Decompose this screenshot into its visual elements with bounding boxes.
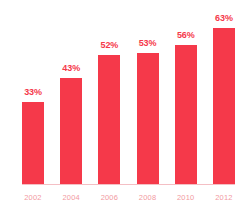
bar-group-2010[interactable]: 56%	[175, 10, 197, 184]
x-tick-label: 2002	[22, 193, 44, 202]
x-tick-label: 2008	[137, 193, 159, 202]
bar-value-label: 33%	[24, 88, 42, 97]
x-axis-tick-labels: 2002 2004 2006 2008 2010 2012	[22, 193, 235, 202]
bar-value-label: 53%	[139, 39, 157, 48]
bar-rect[interactable]	[98, 55, 120, 184]
bar-value-label: 63%	[215, 14, 233, 23]
bar-rect[interactable]	[137, 53, 159, 184]
bar-value-label: 43%	[62, 64, 80, 73]
bar-group-2008[interactable]: 53%	[137, 10, 159, 184]
bar-group-2012[interactable]: 63%	[213, 10, 235, 184]
bar-group-2004[interactable]: 43%	[60, 10, 82, 184]
bar-group-2002[interactable]: 33%	[22, 10, 44, 184]
plot-area: 33% 43% 52% 53% 56% 63%	[22, 10, 235, 184]
bar-chart: 33% 43% 52% 53% 56% 63% 2002 2004 2006 2	[0, 0, 251, 217]
x-tick-label: 2010	[175, 193, 197, 202]
bar-value-label: 52%	[101, 41, 119, 50]
bar-value-label: 56%	[177, 31, 195, 40]
bar-rect[interactable]	[213, 28, 235, 184]
x-axis-line	[22, 184, 235, 185]
bar-rect[interactable]	[22, 102, 44, 184]
x-tick-label: 2004	[60, 193, 82, 202]
bar-rect[interactable]	[175, 45, 197, 184]
x-tick-label: 2012	[213, 193, 235, 202]
x-tick-label: 2006	[98, 193, 120, 202]
bar-rect[interactable]	[60, 78, 82, 185]
bar-group-2006[interactable]: 52%	[98, 10, 120, 184]
